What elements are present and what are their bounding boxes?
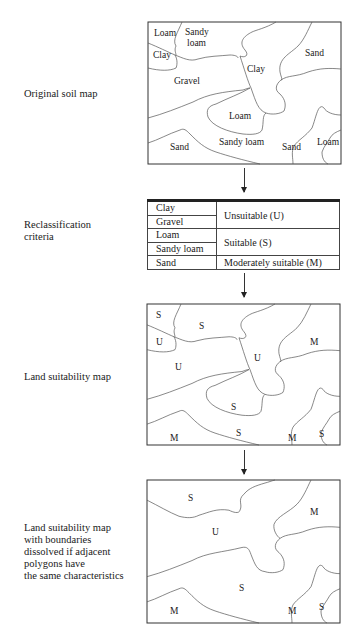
original-soil-map: Loam Sandy loam Clay Gravel Clay Sand Lo… (148, 22, 341, 164)
dissolved-suitability-map: S U M S M M S (147, 480, 340, 623)
class-cell: Suitable (S) (217, 229, 340, 256)
region-label: Clay (153, 50, 171, 60)
soil-cell: Sandy loam (148, 242, 217, 256)
map-frame (147, 480, 340, 623)
label-original-soil-map: Original soil map (24, 88, 98, 100)
region-label: Loam (154, 28, 177, 38)
region-label: M (170, 433, 179, 443)
region-label: U (156, 337, 163, 347)
map-frame (147, 304, 340, 445)
label-land-suitability-map: Land suitability map (24, 371, 111, 383)
region-label: M (288, 606, 297, 616)
soil-cell: Clay (148, 201, 217, 216)
region-label: U (175, 362, 182, 372)
region-label: Sand (170, 142, 189, 152)
region-label: Loam (317, 137, 340, 147)
table-row: Clay Unsuitable (U) (148, 201, 340, 216)
label-dissolved-map: Land suitability map with boundaries dis… (24, 522, 124, 582)
region-label: M (288, 433, 297, 443)
region-label: S (231, 402, 236, 412)
region-label: S (236, 428, 241, 438)
region-label: M (310, 507, 319, 517)
class-cell: Moderately suitable (M) (217, 256, 340, 270)
soil-cell: Gravel (148, 215, 217, 229)
soil-cell: Loam (148, 229, 217, 243)
region-label: Loam (229, 111, 252, 121)
region-label: M (170, 606, 179, 616)
region-label: M (310, 337, 319, 347)
table-row: Sand Moderately suitable (M) (148, 256, 340, 270)
class-cell: Unsuitable (U) (217, 201, 340, 229)
region-label: U (212, 527, 219, 537)
soil-cell: Sand (148, 256, 217, 270)
table-row: Loam Suitable (S) (148, 229, 340, 243)
region-label: loam (187, 38, 207, 48)
label-reclassification-criteria: Reclassification criteria (24, 219, 91, 243)
region-label: U (254, 353, 261, 363)
region-label: S (319, 429, 324, 439)
region-label: S (156, 310, 161, 320)
region-label: Sand (282, 142, 301, 152)
region-label: S (239, 583, 244, 593)
region-label: S (188, 493, 193, 503)
region-label: S (319, 602, 324, 612)
land-suitability-map: S S U U U M S M S M S (147, 304, 340, 445)
arrow-down-3 (244, 450, 245, 474)
region-label: Clay (247, 64, 265, 74)
arrow-down-1 (244, 168, 245, 192)
arrow-down-2 (244, 273, 245, 297)
region-label: Gravel (174, 76, 200, 86)
region-label: Sand (305, 48, 324, 58)
region-label: Sandy loam (219, 137, 265, 147)
region-label: Sandy (185, 27, 209, 37)
reclassification-table: Clay Unsuitable (U) Gravel Loam Suitable… (147, 199, 340, 270)
region-label: S (199, 321, 204, 331)
